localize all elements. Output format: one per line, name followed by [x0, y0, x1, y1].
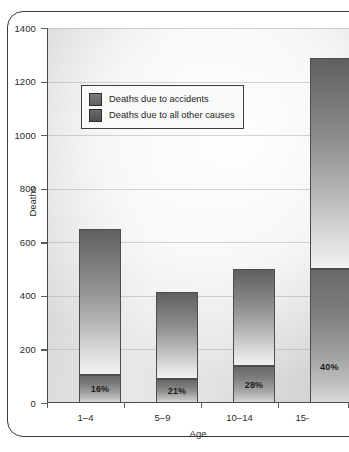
- bar-segment-accidents[interactable]: 40%: [310, 269, 349, 403]
- x-tick-mark: [47, 402, 48, 408]
- bar-segment-other-causes[interactable]: [79, 229, 121, 375]
- bar-percent-label: 40%: [320, 362, 339, 372]
- gridline: [47, 135, 349, 136]
- x-tick-mark: [124, 402, 125, 408]
- bar-percent-label: 16%: [91, 384, 110, 394]
- bar-segment-accidents[interactable]: 21%: [156, 379, 198, 403]
- bar-segment-other-causes[interactable]: [310, 58, 349, 270]
- bar-group[interactable]: 40%: [310, 58, 349, 403]
- gridline: [47, 82, 349, 83]
- legend-label-other-causes: Deaths due to all other causes: [109, 110, 235, 120]
- y-axis-title: Deaths: [27, 162, 38, 242]
- x-tick-label: 15-: [287, 412, 349, 423]
- legend-label-accidents: Deaths due to accidents: [109, 94, 209, 104]
- bar-segment-accidents[interactable]: 16%: [79, 375, 121, 403]
- x-tick-label: 5–9: [133, 412, 193, 423]
- bar-percent-label: 28%: [245, 380, 264, 390]
- gridline: [47, 189, 349, 190]
- figure-container: 16% 21% 28% 40% De: [0, 0, 349, 452]
- x-tick-label: 1–4: [56, 412, 116, 423]
- legend-swatch-other-causes: [89, 109, 102, 122]
- x-axis-title: Age: [47, 428, 349, 439]
- x-tick-mark: [278, 402, 279, 408]
- legend-item-accidents: Deaths due to accidents: [89, 91, 236, 107]
- gridline: [47, 28, 349, 29]
- x-tick-mark: [201, 402, 202, 408]
- legend-item-other-causes: Deaths due to all other causes: [89, 107, 236, 123]
- bar-segment-accidents[interactable]: 28%: [233, 366, 275, 403]
- y-axis-line: [47, 28, 48, 403]
- bar-group[interactable]: 21%: [156, 292, 198, 403]
- bar-segment-other-causes[interactable]: [233, 269, 275, 366]
- legend-swatch-accidents: [89, 93, 102, 106]
- bar-group[interactable]: 16%: [79, 229, 121, 403]
- plot-area: 16% 21% 28% 40% De: [47, 28, 349, 403]
- x-tick-label: 10–14: [210, 412, 270, 423]
- bar-percent-label: 21%: [168, 386, 187, 396]
- x-axis-line: [47, 402, 349, 403]
- bar-group[interactable]: 28%: [233, 269, 275, 403]
- bar-segment-other-causes[interactable]: [156, 292, 198, 380]
- chart-legend: Deaths due to accidents Deaths due to al…: [81, 85, 244, 129]
